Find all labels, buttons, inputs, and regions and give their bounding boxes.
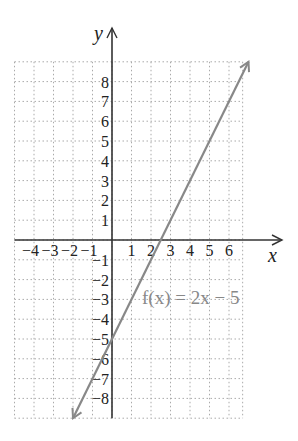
y-tick-label: 4 — [101, 153, 109, 170]
y-tick-label: −4 — [92, 311, 109, 328]
x-tick-label: 6 — [225, 242, 233, 259]
function-label: f(x) = 2x − 5 — [142, 287, 239, 309]
y-tick-label: −5 — [92, 331, 109, 348]
y-tick-label: −2 — [92, 272, 109, 289]
y-tick-label: −1 — [92, 252, 109, 269]
y-tick-label: 8 — [101, 74, 109, 91]
y-tick-label: −3 — [92, 291, 109, 308]
x-tick-label: 1 — [128, 242, 136, 259]
y-tick-label: 7 — [101, 93, 109, 110]
x-tick-label: −3 — [42, 242, 59, 259]
y-tick-label: 3 — [101, 173, 109, 190]
y-tick-label: 2 — [101, 192, 109, 209]
y-tick-label: 5 — [101, 133, 109, 150]
y-tick-label: 1 — [101, 212, 109, 229]
axes — [15, 28, 283, 418]
x-tick-label: 3 — [167, 242, 175, 259]
x-tick-label: 5 — [206, 242, 214, 259]
x-axis-label: x — [267, 244, 277, 266]
x-tick-label: −2 — [61, 242, 78, 259]
y-tick-label: −8 — [92, 390, 109, 407]
y-tick-label: −6 — [92, 351, 109, 368]
x-tick-label: −4 — [22, 242, 39, 259]
x-tick-label: 4 — [186, 242, 194, 259]
y-tick-label: 6 — [101, 113, 109, 130]
function-graph: −4−3−2−112345687654321−1−2−3−4−5−6−7−8 x… — [0, 0, 298, 441]
y-axis-label: y — [92, 22, 103, 45]
